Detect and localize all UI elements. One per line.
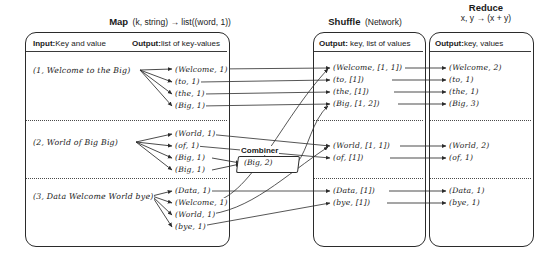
map-output-record: (Welcome, 1) bbox=[174, 65, 229, 74]
reduce-output-record: (to, 1) bbox=[448, 75, 475, 84]
input-record: (2, World of Big Big) bbox=[32, 138, 119, 147]
reduce-output-record: (bye, 1) bbox=[448, 198, 481, 207]
phase-heading-shuffle: Shuffle (Network) bbox=[300, 11, 430, 29]
column-header-input: Input:Key and value bbox=[32, 39, 107, 48]
column-header-shuffle-output-rest: key, list of values bbox=[348, 39, 411, 48]
reduce-output-record: (Big, 3) bbox=[448, 99, 480, 108]
map-output-record: (Big, 1) bbox=[174, 153, 206, 162]
shuffle-output-record: (World, [1, 1]) bbox=[332, 141, 391, 150]
map-output-record: (to, 1) bbox=[174, 77, 201, 86]
reduce-output-record: (World, 2) bbox=[448, 141, 490, 150]
map-output-record: (World, 1) bbox=[174, 129, 216, 138]
column-header-map-output-rest: list of key-values bbox=[161, 39, 220, 48]
reduce-output-record: (the, 1) bbox=[448, 87, 480, 96]
map-output-record: (Data, 1) bbox=[174, 186, 212, 195]
map-group-separator-1 bbox=[26, 120, 227, 121]
column-header-reduce-output-rest: key, values bbox=[464, 39, 503, 48]
reduce-group-separator-1 bbox=[430, 120, 531, 121]
shuffle-output-record: (bye, [1]) bbox=[332, 198, 371, 207]
shuffle-output-record: (the, [1]) bbox=[332, 87, 370, 96]
shuffle-header-rule bbox=[314, 51, 423, 52]
shuffle-output-record: (to, [1]) bbox=[332, 75, 365, 84]
phase-signature-map: (k, string) → list((word, 1)) bbox=[133, 17, 231, 27]
shuffle-output-record: (of, [1]) bbox=[332, 153, 364, 162]
shuffle-output-record: (Data, [1]) bbox=[332, 186, 376, 195]
column-header-input-bold: Input: bbox=[33, 39, 55, 48]
reduce-output-record: (Data, 1) bbox=[448, 186, 486, 195]
map-output-record: (Welcome, 1) bbox=[174, 198, 229, 207]
shuffle-output-record: (Big, [1, 2]) bbox=[332, 99, 381, 108]
shuffle-group-separator-1 bbox=[314, 120, 423, 121]
input-record: (3, Data Welcome World bye) bbox=[32, 192, 154, 201]
map-output-record: (bye, 1) bbox=[174, 222, 207, 231]
phase-name-shuffle: Shuffle bbox=[328, 16, 360, 27]
combiner-record: (Big, 2) bbox=[244, 158, 272, 167]
phase-heading-map: Map (k, string) → list((word, 1)) bbox=[60, 11, 280, 29]
reduce-output-record: (of, 1) bbox=[448, 153, 474, 162]
phase-signature-reduce: x, y → (x + y) bbox=[430, 14, 542, 24]
map-group-separator-2 bbox=[26, 178, 227, 179]
combiner-label: Combiner bbox=[240, 146, 279, 155]
column-header-map-output: Output:list of key-values bbox=[131, 39, 221, 48]
map-output-record: (the, 1) bbox=[174, 89, 206, 98]
phase-signature-shuffle: (Network) bbox=[365, 17, 402, 27]
column-header-input-rest: Key and value bbox=[55, 39, 106, 48]
input-record: (1, Welcome to the Big) bbox=[32, 66, 131, 75]
column-header-map-output-bold: Output: bbox=[132, 39, 161, 48]
shuffle-output-record: (Welcome, [1, 1]) bbox=[332, 63, 403, 72]
reduce-group-separator-2 bbox=[430, 178, 531, 179]
column-header-shuffle-output: Output: key, list of values bbox=[318, 39, 411, 48]
column-header-reduce-output-bold: Output: bbox=[435, 39, 464, 48]
column-header-reduce-output: Output:key, values bbox=[434, 39, 504, 48]
shuffle-group-separator-2 bbox=[314, 178, 423, 179]
map-output-record: (World, 1) bbox=[174, 210, 216, 219]
reduce-header-rule bbox=[430, 51, 531, 52]
map-header-rule bbox=[26, 51, 227, 52]
map-output-record: (of, 1) bbox=[174, 141, 200, 150]
map-output-record: (Big, 1) bbox=[174, 165, 206, 174]
column-header-shuffle-output-bold: Output: bbox=[319, 39, 348, 48]
map-output-record: (Big, 1) bbox=[174, 101, 206, 110]
phase-heading-reduce: Reduce x, y → (x + y) bbox=[430, 3, 542, 24]
reduce-output-record: (Welcome, 2) bbox=[448, 63, 503, 72]
phase-name-map: Map bbox=[109, 16, 128, 27]
mapreduce-diagram: Map (k, string) → list((word, 1)) Shuffl… bbox=[0, 0, 545, 259]
